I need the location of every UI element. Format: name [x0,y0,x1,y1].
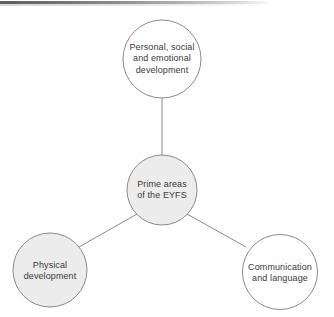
node-circle-physical-development[interactable] [13,233,87,307]
connector-hub-to-physical-development [79,214,137,247]
node-circle-prime-areas-eyfs[interactable] [127,155,197,225]
node-circle-personal-social-emotional[interactable] [123,20,201,98]
connector-hub-to-communication-and-language [187,214,246,247]
diagram-canvas: Personal, social and emotional developme… [0,0,334,317]
node-shape-group [13,20,318,310]
node-circle-communication-and-language[interactable] [243,235,318,310]
diagram-graphics [0,0,334,317]
